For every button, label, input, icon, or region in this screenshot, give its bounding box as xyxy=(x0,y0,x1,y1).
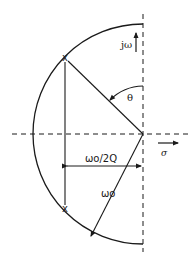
radius-label: ωo xyxy=(101,188,116,199)
omega0-radius-line xyxy=(91,134,143,236)
theta-label: θ xyxy=(127,92,133,103)
real-part-label: ωo/2Q xyxy=(85,153,117,164)
s-plane-diagram: x x jω θ σ ωo/2Q ωo xyxy=(0,0,194,256)
lower-pole-marker: x xyxy=(62,203,68,214)
upper-pole-marker: x xyxy=(62,52,68,63)
real-axis-label: σ xyxy=(161,148,168,158)
imag-axis-label: jω xyxy=(120,39,132,50)
